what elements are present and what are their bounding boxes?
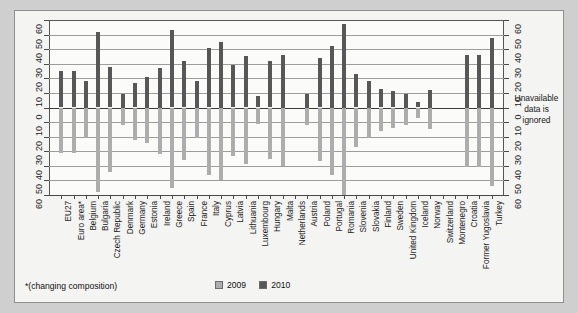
gridline [49, 64, 504, 65]
bar-2010 [404, 94, 408, 107]
bar-2010 [318, 58, 322, 108]
bar-2010 [207, 48, 211, 108]
bar-2010 [354, 74, 358, 108]
x-axis-tick [86, 195, 87, 199]
x-axis-tick [184, 195, 185, 199]
x-axis-tick [356, 195, 357, 199]
bar-2009 [195, 108, 199, 139]
x-axis-label: Belgium [89, 201, 98, 231]
bar-2009 [182, 108, 186, 161]
bar-2010 [96, 32, 100, 108]
x-axis-label: United Kingdom [409, 201, 418, 259]
bar-2010 [145, 77, 149, 108]
bar-2010 [342, 24, 346, 107]
x-axis-label: Austria [310, 201, 319, 226]
axis-tick [504, 137, 509, 138]
axis-tick [44, 108, 49, 109]
x-axis-label: Luxembourg [261, 201, 270, 247]
bar-2009 [108, 108, 112, 172]
gridline [49, 180, 504, 181]
gridline [49, 137, 504, 138]
x-axis-label: Hungary [273, 201, 282, 232]
x-axis-label: Czech Republic [113, 201, 122, 258]
y-axis-tick-label-right: 60 [510, 21, 526, 37]
bar-2009 [96, 108, 100, 193]
x-axis-tick [455, 195, 456, 199]
axis-tick [504, 108, 509, 109]
x-axis-tick [381, 195, 382, 199]
plot-area [49, 20, 504, 195]
x-axis-tick [61, 195, 62, 199]
x-axis-label: Former Yugoslavia [482, 201, 491, 269]
bar-2010 [490, 38, 494, 108]
bar-2009 [281, 108, 285, 166]
bar-2009 [158, 108, 162, 155]
x-axis-tick [135, 195, 136, 199]
bar-2010 [281, 55, 285, 108]
gridline [49, 122, 504, 123]
x-axis-label: Greece [175, 201, 184, 228]
bar-2009 [490, 108, 494, 187]
x-axis-label: Italy [212, 201, 221, 216]
bar-2010 [182, 61, 186, 108]
bar-2009 [416, 108, 420, 118]
bar-2010 [84, 81, 88, 107]
bar-2009 [231, 108, 235, 156]
bar-2010 [121, 94, 125, 107]
x-axis-label: France [200, 201, 209, 226]
bar-2010 [158, 68, 162, 107]
bar-2010 [133, 83, 137, 108]
axis-tick [44, 151, 49, 152]
gridline [49, 35, 504, 36]
axis-tick [44, 180, 49, 181]
bar-2009 [391, 108, 395, 128]
x-axis-tick [258, 195, 259, 199]
axis-tick [44, 122, 49, 123]
x-axis-label: Turkey [495, 201, 504, 226]
x-axis-label: Romania [347, 201, 356, 234]
x-axis-label: Ireland [163, 201, 172, 226]
bar-2010 [219, 42, 223, 108]
bar-2010 [108, 67, 112, 108]
x-axis-tick [160, 195, 161, 199]
x-axis-label: Slovakia [372, 201, 381, 232]
x-axis-label: Sweden [396, 201, 405, 231]
bar-2009 [256, 108, 260, 124]
x-axis-tick [197, 195, 198, 199]
x-axis-tick [270, 195, 271, 199]
bar-2009 [72, 108, 76, 153]
bar-2010 [391, 91, 395, 107]
axis-tick [44, 49, 49, 50]
x-axis-label: Montenegro [458, 201, 467, 245]
x-axis-label: Portugal [335, 201, 344, 232]
bar-2009 [318, 108, 322, 162]
x-axis-tick [430, 195, 431, 199]
x-axis-tick [233, 195, 234, 199]
bar-2010 [59, 71, 63, 107]
bar-2010 [244, 56, 248, 107]
gridline [49, 49, 504, 50]
axis-tick [504, 151, 509, 152]
y-axis-tick-label-right: 30 [510, 152, 526, 168]
x-axis-tick [307, 195, 308, 199]
x-axis-tick [283, 195, 284, 199]
legend-label: 2009 [227, 280, 246, 290]
bar-2009 [477, 108, 481, 168]
axis-tick [44, 35, 49, 36]
bar-2009 [465, 108, 469, 168]
bar-2009 [84, 108, 88, 139]
x-axis-tick [246, 195, 247, 199]
x-axis-label: Estonia [150, 201, 159, 228]
x-axis-tick [209, 195, 210, 199]
bar-2009 [305, 108, 309, 126]
x-axis-tick [172, 195, 173, 199]
x-axis-tick [320, 195, 321, 199]
y-axis-tick-label-right: 50 [510, 181, 526, 197]
x-axis-label: Lithuania [249, 201, 258, 234]
axis-tick [504, 195, 509, 196]
bar-2009 [404, 108, 408, 126]
x-axis-tick [492, 195, 493, 199]
y-axis-tick-label-left: 60 [31, 196, 47, 212]
axis-tick [44, 64, 49, 65]
x-axis-label: EU27 [64, 201, 73, 221]
